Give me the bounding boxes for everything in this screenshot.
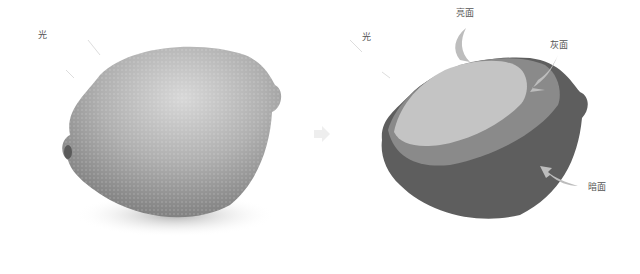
- light-ray-2: [382, 72, 390, 78]
- light-label: 光: [38, 28, 47, 41]
- highlight-arrow: [455, 28, 470, 62]
- midtone-label: 灰面: [550, 38, 568, 51]
- light-ray-2: [66, 70, 74, 78]
- light-ray-1: [88, 40, 100, 55]
- lemon-photo-panel: 光: [0, 0, 320, 274]
- lemon-tip: [64, 145, 72, 159]
- highlight-label: 亮面: [456, 6, 474, 19]
- lemon-photo: [0, 0, 320, 274]
- light-label: 光: [362, 30, 371, 43]
- shading-diagram-panel: 光 亮面 灰面 暗面: [320, 0, 640, 274]
- light-ray-1: [350, 40, 362, 52]
- shadow-label: 暗面: [588, 180, 606, 193]
